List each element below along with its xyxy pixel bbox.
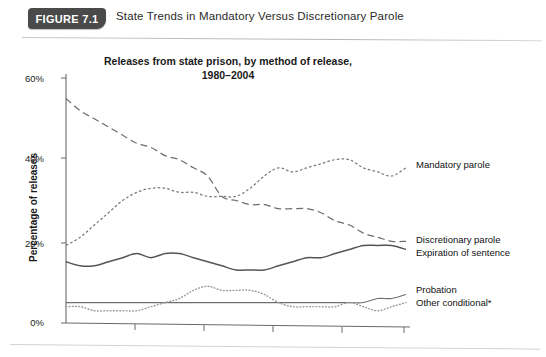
series-label-expiration-of-sentence: Expiration of sentence [416, 247, 510, 258]
figure-caption: State Trends in Mandatory Versus Discret… [116, 10, 404, 22]
series-line-other-conditional [66, 286, 406, 311]
series-line-expiration-of-sentence [66, 245, 406, 270]
chart-container: Releases from state prison, by method of… [0, 44, 546, 357]
figure-header: FIGURE 7.1 State Trends in Mandatory Ver… [0, 0, 546, 44]
header-divider [22, 37, 542, 41]
x-axis-line [66, 323, 410, 327]
figure-number-badge: FIGURE 7.1 [28, 8, 106, 29]
series-line-discretionary-parole [66, 98, 406, 241]
series-label-probation: Probation [416, 284, 457, 295]
plot-svg [0, 44, 546, 357]
series-label-mandatory-parole: Mandatory parole [416, 159, 490, 170]
series-label-discretionary-parole: Discretionary parole [416, 234, 500, 245]
series-line-mandatory-parole [66, 159, 406, 246]
y-axis-ticks [61, 78, 66, 323]
series-line-probation [66, 294, 406, 302]
series-label-other-conditional: Other conditional* [416, 297, 492, 308]
